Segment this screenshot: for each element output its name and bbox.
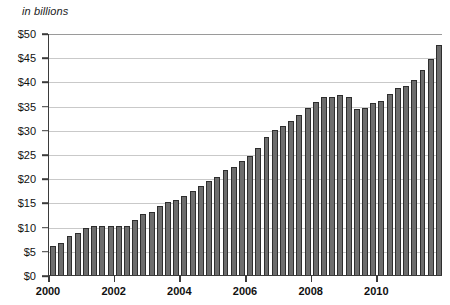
y-tick-label: $35 [18, 101, 36, 113]
bar [83, 228, 89, 275]
chart-container: in billions $0$5$10$15$20$25$30$35$40$45… [0, 0, 450, 305]
bar [206, 181, 212, 275]
bar [272, 130, 278, 275]
bar [223, 170, 229, 275]
y-tick-label: $10 [18, 222, 36, 234]
bar-series [49, 34, 442, 275]
bar [255, 148, 261, 275]
bar [337, 95, 343, 275]
bar [288, 121, 294, 275]
y-tick-label: $5 [24, 246, 36, 258]
bar [436, 45, 442, 275]
bar [99, 226, 105, 275]
bar [428, 59, 434, 275]
bar [157, 206, 163, 275]
bar [362, 108, 368, 275]
bar [247, 156, 253, 275]
bar [387, 94, 393, 275]
bar [378, 101, 384, 275]
bar [313, 102, 319, 275]
x-tick-label: 2004 [167, 285, 191, 297]
x-tick-label: 2006 [233, 285, 257, 297]
y-tick-label: $25 [18, 149, 36, 161]
bar [181, 196, 187, 275]
bar [214, 177, 220, 275]
bar [91, 226, 97, 275]
bar [239, 161, 245, 275]
x-tick-mark [48, 276, 50, 282]
y-tick-label: $15 [18, 197, 36, 209]
bar [370, 103, 376, 275]
bar [296, 115, 302, 275]
y-tick-label: $45 [18, 52, 36, 64]
bar [116, 226, 122, 275]
x-tick-mark [179, 276, 181, 282]
bar [149, 212, 155, 275]
y-tick-label: $30 [18, 125, 36, 137]
bar [124, 226, 130, 275]
bar [411, 80, 417, 275]
x-tick-label: 2000 [36, 285, 60, 297]
bar [173, 200, 179, 276]
bar [50, 246, 56, 275]
x-tick-mark [245, 276, 247, 282]
y-tick-label: $50 [18, 28, 36, 40]
bar [321, 97, 327, 275]
bar [75, 233, 81, 275]
bar [140, 214, 146, 275]
bar [305, 108, 311, 275]
bar [420, 70, 426, 275]
bar [354, 109, 360, 275]
x-tick-mark [114, 276, 116, 282]
y-axis: $0$5$10$15$20$25$30$35$40$45$50 [0, 0, 48, 305]
bar [329, 97, 335, 275]
bar [67, 236, 73, 275]
x-tick-mark [311, 276, 313, 282]
x-tick-label: 2008 [298, 285, 322, 297]
x-tick-mark [376, 276, 378, 282]
bar [108, 226, 114, 275]
bar [280, 126, 286, 275]
bar [395, 88, 401, 275]
bar [231, 167, 237, 275]
x-tick-label: 2002 [101, 285, 125, 297]
plot-area [48, 34, 442, 276]
bar [132, 220, 138, 275]
x-tick-label: 2010 [364, 285, 388, 297]
y-tick-label: $0 [24, 270, 36, 282]
bar [198, 186, 204, 275]
bar [165, 202, 171, 275]
bar [346, 97, 352, 275]
bar [190, 191, 196, 275]
bar [264, 137, 270, 275]
x-axis: 200020022004200620082010 [48, 276, 442, 305]
y-tick-label: $20 [18, 173, 36, 185]
bar [403, 86, 409, 275]
bar [58, 243, 64, 275]
y-tick-label: $40 [18, 76, 36, 88]
